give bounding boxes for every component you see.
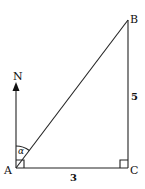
side-bc-length: 5	[131, 91, 138, 102]
triangle-diagram: N α A B C 5 3	[0, 0, 145, 189]
side-ab	[16, 20, 128, 168]
angle-alpha-label: α	[18, 146, 24, 156]
north-label: N	[13, 70, 23, 83]
point-b-label: B	[130, 13, 138, 26]
side-ac-length: 3	[70, 172, 77, 183]
north-arrow-icon	[13, 82, 20, 91]
point-a-label: A	[3, 164, 13, 177]
point-c-label: C	[130, 164, 138, 177]
right-angle-marker-c	[120, 160, 128, 168]
